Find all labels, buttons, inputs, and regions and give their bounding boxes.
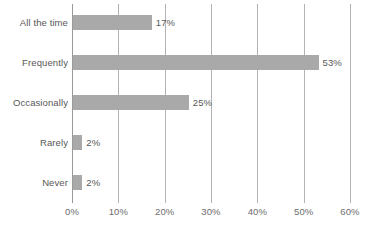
bar-chart: All the time Frequently Occasionally Rar… xyxy=(0,0,367,227)
xtick-label-50: 50% xyxy=(294,206,313,217)
category-label-frequently: Frequently xyxy=(0,57,68,68)
x-axis: 0% 10% 20% 30% 40% 50% 60% xyxy=(0,206,367,224)
xtick-label-60: 60% xyxy=(340,206,359,217)
bar-occasionally xyxy=(73,95,189,110)
category-label-occasionally: Occasionally xyxy=(0,97,68,108)
value-label-never: 2% xyxy=(86,177,100,188)
xtick-label-20: 20% xyxy=(155,206,174,217)
bar-never xyxy=(73,175,82,190)
gridline-60 xyxy=(350,4,351,203)
gridline-50 xyxy=(304,4,305,203)
xtick-label-10: 10% xyxy=(109,206,128,217)
xtick-label-0: 0% xyxy=(65,206,79,217)
bar-rarely xyxy=(73,135,82,150)
bar-frequently xyxy=(73,55,319,70)
xtick-label-40: 40% xyxy=(248,206,267,217)
xtick-label-30: 30% xyxy=(201,206,220,217)
category-label-rarely: Rarely xyxy=(0,137,68,148)
category-label-all-the-time: All the time xyxy=(0,17,68,28)
gridline-40 xyxy=(257,4,258,203)
bar-all-the-time xyxy=(73,15,152,30)
value-label-all-the-time: 17% xyxy=(156,17,175,28)
value-label-occasionally: 25% xyxy=(193,97,212,108)
category-axis: All the time Frequently Occasionally Rar… xyxy=(0,0,68,227)
category-label-never: Never xyxy=(0,177,68,188)
value-label-frequently: 53% xyxy=(323,57,342,68)
value-label-rarely: 2% xyxy=(86,137,100,148)
